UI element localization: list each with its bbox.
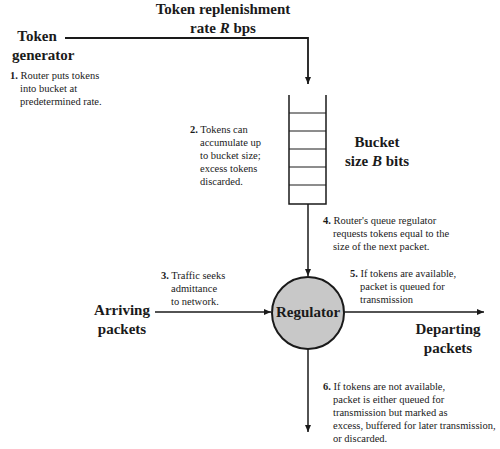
step-text: excess, buffered for later transmission,: [323, 419, 496, 432]
step-number: 2.: [190, 124, 198, 135]
token-rate-var: R: [220, 20, 230, 36]
token-rate-prefix: rate: [190, 20, 220, 36]
step-text: Tokens can: [200, 124, 247, 135]
step-text: size of the next packet.: [323, 240, 449, 253]
arriving-line2: packets: [98, 321, 146, 337]
step-text: Router's queue regulator: [334, 215, 437, 226]
step-text: transmission: [350, 293, 456, 306]
step-text: Router puts tokens: [21, 70, 100, 81]
step-number: 6.: [323, 381, 331, 392]
step-text: to network.: [161, 295, 225, 308]
arriving-line1: Arriving: [94, 302, 150, 318]
token-generator-line1: Token: [17, 28, 56, 44]
bucket-shape: [289, 95, 326, 204]
bucket-line1: Bucket: [355, 134, 400, 150]
token-generator-label: Token generator: [12, 27, 62, 65]
step-text: packet is either queued for: [323, 393, 496, 406]
step-text: packet is queued for: [350, 280, 456, 293]
step-number: 1.: [10, 70, 18, 81]
step-4-note: 4. Router's queue regulator requests tok…: [323, 214, 449, 253]
step-number: 5.: [350, 268, 358, 279]
step-2-note: 2. Tokens can accumulate up to bucket si…: [190, 123, 261, 188]
step-text: to bucket size;: [190, 149, 261, 162]
token-rate-line1: Token replenishment: [156, 1, 291, 17]
step-number: 3.: [161, 270, 169, 281]
bucket-prefix: size: [345, 153, 372, 169]
token-rate-label: Token replenishment rate R bps: [128, 0, 318, 38]
departing-packets-label: Departing packets: [410, 320, 486, 358]
step-1-note: 1. Router puts tokens into bucket at pre…: [10, 69, 102, 108]
arriving-packets-label: Arriving packets: [92, 301, 152, 339]
bucket-size-label: Bucket size B bits: [327, 133, 427, 171]
step-5-note: 5. If tokens are available, packet is qu…: [350, 267, 456, 306]
step-text: admittance: [161, 282, 225, 295]
step-text: predetermined rate.: [10, 95, 102, 108]
step-text: discarded.: [190, 175, 261, 188]
bucket-suffix: bits: [382, 153, 409, 169]
token-rate-suffix: bps: [230, 20, 256, 36]
step-text: or discarded.: [323, 432, 496, 445]
step-text: requests tokens equal to the: [323, 227, 449, 240]
bucket-var: B: [372, 153, 382, 169]
step-text: into bucket at: [10, 82, 102, 95]
step-text: Traffic seeks: [171, 270, 225, 281]
step-3-note: 3. Traffic seeks admittance to network.: [161, 269, 225, 308]
departing-line2: packets: [424, 340, 472, 356]
step-number: 4.: [323, 215, 331, 226]
step-text: accumulate up: [190, 136, 261, 149]
step-6-note: 6. If tokens are not available, packet i…: [323, 380, 496, 445]
step-text: If tokens are not available,: [334, 381, 446, 392]
step-text: If tokens are available,: [361, 268, 457, 279]
regulator-label: Regulator: [272, 303, 344, 322]
step-text: excess tokens: [190, 162, 261, 175]
token-generator-line2: generator: [12, 47, 74, 63]
departing-line1: Departing: [416, 321, 481, 337]
step-text: transmission but marked as: [323, 406, 496, 419]
